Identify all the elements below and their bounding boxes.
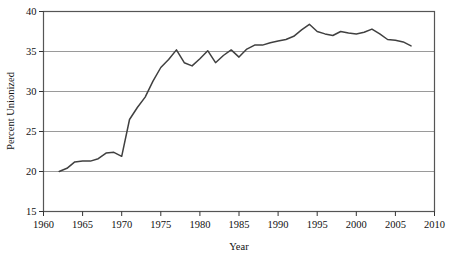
y-tick-label: 35	[26, 46, 37, 57]
x-tick-label: 1965	[72, 219, 93, 230]
y-tick-label: 25	[26, 126, 37, 137]
x-tick-label: 1970	[111, 219, 132, 230]
y-tick-label: 40	[26, 6, 37, 17]
x-tick-label: 1975	[150, 219, 171, 230]
x-axis-title: Year	[229, 241, 249, 252]
y-tick-label: 15	[26, 206, 37, 217]
x-tick-label: 2010	[424, 219, 445, 230]
x-tick-label: 1990	[268, 219, 289, 230]
y-tick-label: 30	[26, 86, 37, 97]
x-tick-label: 1985	[229, 219, 250, 230]
x-tick-label: 1980	[189, 219, 210, 230]
line-chart-plot: 1960196519701975198019851990199520002005…	[0, 0, 452, 271]
x-tick-label: 1960	[33, 219, 54, 230]
y-axis-title: Percent Unionized	[5, 71, 16, 150]
y-tick-label: 20	[26, 166, 37, 177]
chart-container: 1960196519701975198019851990199520002005…	[0, 0, 452, 271]
chart-background	[0, 0, 452, 271]
x-tick-label: 1995	[307, 219, 328, 230]
x-tick-label: 2000	[346, 219, 367, 230]
x-tick-label: 2005	[385, 219, 406, 230]
